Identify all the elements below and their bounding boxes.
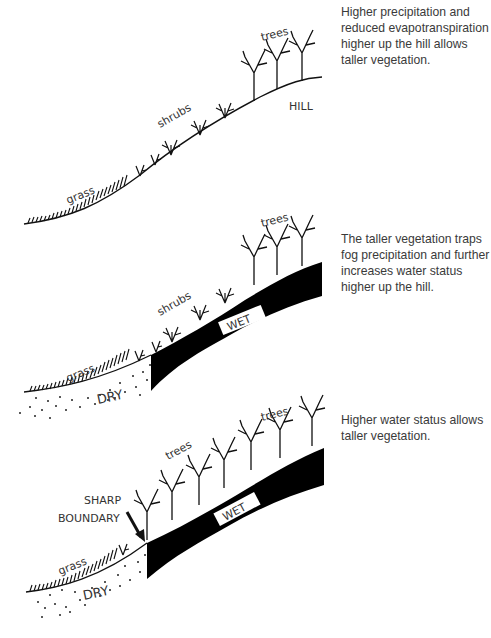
dry-label: DRY xyxy=(96,387,125,407)
panel-2-description: The taller vegetation traps fog precipit… xyxy=(341,231,491,295)
panel-2-hill: WET grass shrubs trees DRY xyxy=(19,210,322,419)
grass-label: grass xyxy=(64,183,97,206)
arrow-icon xyxy=(127,512,145,542)
sharp-boundary-label-2: BOUNDARY xyxy=(58,512,120,525)
hill-label: HILL xyxy=(289,100,314,113)
panel-1-description: Higher precipitation and reduced evapotr… xyxy=(341,4,491,68)
grass-label: grass xyxy=(56,554,89,577)
panel-3-hill: WET grass trees trees DRY SHARP BOUNDARY xyxy=(26,395,325,618)
trees-label: trees xyxy=(260,210,290,229)
panel-1-hill: grass shrubs trees HILL xyxy=(24,24,322,224)
sharp-boundary-label-1: SHARP xyxy=(84,494,121,507)
diagram-canvas: grass shrubs trees HILL WET xyxy=(0,0,491,638)
panel-3-description: Higher water status allows taller vegeta… xyxy=(341,412,491,444)
trees-label: trees xyxy=(260,24,290,43)
shrubs-label: shrubs xyxy=(155,101,194,131)
dry-label: DRY xyxy=(82,583,111,603)
shrubs-label: shrubs xyxy=(155,289,194,319)
